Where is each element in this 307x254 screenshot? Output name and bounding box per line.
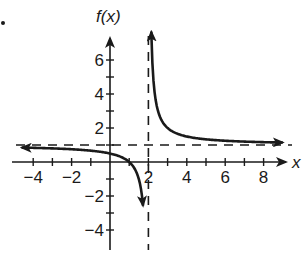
x-tick-label: 2 (144, 168, 153, 187)
x-tick-label: 4 (182, 168, 191, 187)
y-tick-label: −4 (85, 221, 104, 240)
x-tick-label: 6 (220, 168, 229, 187)
y-axis-title: f(x) (96, 7, 121, 26)
x-tick-label: 8 (259, 168, 268, 187)
x-axis-title: x (291, 153, 301, 172)
y-tick-label: −2 (85, 187, 104, 206)
y-tick-label: 4 (95, 85, 104, 104)
x-tick-label: −2 (62, 168, 81, 187)
y-tick-label: 2 (95, 119, 104, 138)
y-tick-label: 6 (95, 51, 104, 70)
x-tick-label: −4 (24, 168, 43, 187)
right-branch-curve (151, 32, 283, 143)
function-graph: −4−22468642−2−4 x f(x) (0, 0, 307, 254)
